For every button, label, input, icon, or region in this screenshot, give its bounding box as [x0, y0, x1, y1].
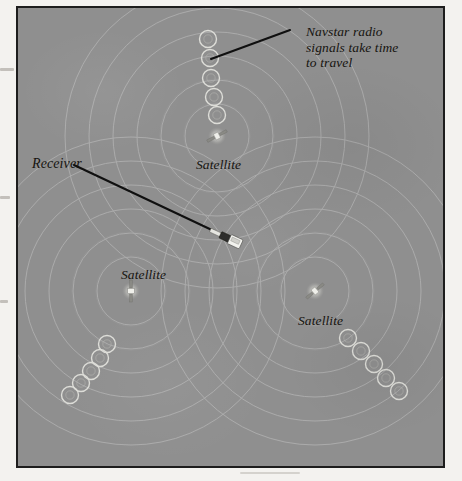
- rings-satellite-left: [18, 137, 285, 445]
- wavefront-rings: [18, 8, 443, 445]
- satellite-right-label: Satellite: [298, 313, 343, 329]
- receiver-label: Receiver: [32, 156, 82, 172]
- margin-text-bleed: [0, 196, 10, 199]
- satellite-top-label: Satellite: [196, 157, 241, 173]
- margin-text-bleed: [0, 300, 8, 303]
- leader-line-navstar: [211, 30, 290, 59]
- satellite-icon: [122, 280, 140, 302]
- margin-text-bleed: [0, 68, 14, 71]
- satellite-icon: [206, 127, 228, 145]
- signal-markers-top: [200, 31, 226, 124]
- navstar-callout-label: Navstar radio signals take time to trave…: [306, 24, 398, 71]
- signal-markers-right: [340, 330, 408, 400]
- diagram-svg: [18, 8, 443, 466]
- margin-text-bleed: [240, 472, 300, 474]
- satellite-icon: [305, 281, 326, 300]
- page-canvas: Navstar radio signals take time to trave…: [0, 0, 462, 481]
- figure-plate: Navstar radio signals take time to trave…: [16, 6, 445, 468]
- satellite-left-label: Satellite: [121, 267, 166, 283]
- handheld-receiver-icon: [208, 226, 243, 249]
- leader-line-receiver: [74, 165, 214, 231]
